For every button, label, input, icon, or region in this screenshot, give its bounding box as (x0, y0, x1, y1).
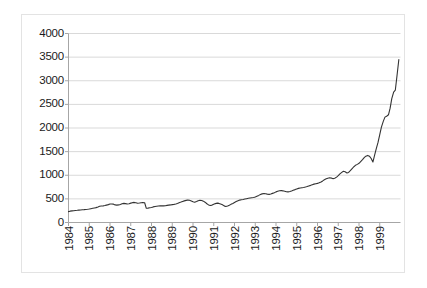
x-axis-tick-labels: 1984198519861987198819891990199119921993… (0, 226, 427, 278)
x-axis-tick-label: 1988 (146, 226, 158, 251)
x-axis-tick-label: 1996 (312, 226, 324, 251)
chart-figure: 40003500300025002000150010005000 1984198… (0, 0, 427, 288)
x-axis-tick-label: 1990 (187, 226, 199, 251)
x-axis-tick-label: 1985 (83, 226, 95, 251)
x-axis-tick-label: 1995 (291, 226, 303, 251)
x-axis-tick-label: 1994 (270, 226, 282, 251)
x-axis-tick-label: 1997 (332, 226, 344, 251)
x-axis-tick-label: 1984 (63, 226, 75, 251)
x-axis-tick-label: 1992 (229, 226, 241, 251)
x-axis-tick-label: 1986 (104, 226, 116, 251)
x-axis-tick-label: 1991 (208, 226, 220, 251)
x-axis-tick-label: 1987 (125, 226, 137, 251)
x-axis-tick-label: 1998 (353, 226, 365, 251)
data-series-line (69, 59, 399, 211)
x-axis-tick-label: 1989 (166, 226, 178, 251)
gridlines (69, 34, 401, 199)
axis-tick-marks (65, 34, 380, 227)
x-axis-tick-label: 1993 (249, 226, 261, 251)
x-axis-tick-label: 1999 (374, 226, 386, 251)
